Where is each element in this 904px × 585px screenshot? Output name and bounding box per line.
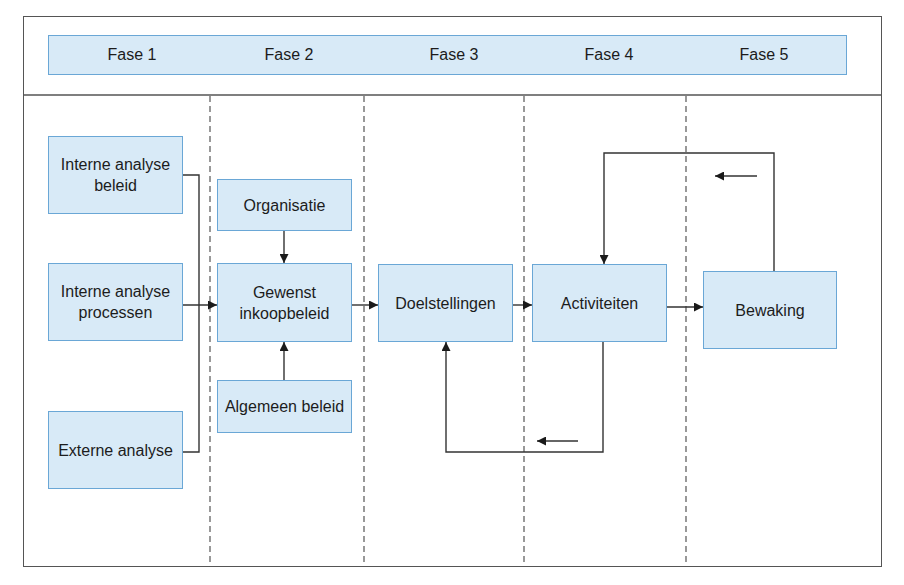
node-organisatie: Organisatie (217, 179, 352, 231)
node-externe-analyse: Externe analyse (48, 411, 183, 489)
phase1-collector-line (183, 175, 199, 452)
node-bewaking: Bewaking (703, 271, 837, 349)
node-doelstellingen: Doelstellingen (378, 264, 513, 342)
node-interne-analyse-beleid: Interne analyse beleid (48, 136, 183, 214)
node-interne-analyse-processen: Interne analyse processen (48, 263, 183, 341)
node-gewenst-inkoopbeleid: Gewenst inkoopbeleid (217, 263, 352, 342)
node-algemeen-beleid: Algemeen beleid (217, 380, 352, 433)
node-activiteiten: Activiteiten (532, 264, 667, 342)
feedback-bewaking-activiteiten (604, 153, 774, 271)
